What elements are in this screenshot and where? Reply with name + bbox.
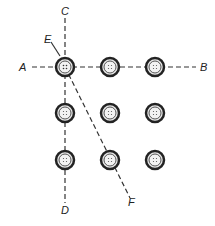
button-r3c2 (101, 151, 119, 169)
button-r1c3 (146, 58, 164, 76)
button-r3c3 (146, 151, 164, 169)
label-f: F (128, 196, 136, 208)
buttons (56, 58, 164, 169)
label-a: A (18, 61, 26, 73)
label-e: E (44, 33, 52, 45)
button-r3c1 (56, 151, 74, 169)
button-r2c3 (146, 104, 164, 122)
label-c: C (61, 5, 69, 17)
e-leader (51, 42, 60, 56)
line-e-f (65, 67, 130, 198)
button-r1c2 (101, 58, 119, 76)
button-r2c2 (101, 104, 119, 122)
button-grid-diagram: A B C D E F (0, 0, 215, 226)
label-d: D (61, 204, 69, 216)
button-r1c1 (56, 58, 74, 76)
button-r2c1 (56, 104, 74, 122)
label-b: B (200, 61, 207, 73)
